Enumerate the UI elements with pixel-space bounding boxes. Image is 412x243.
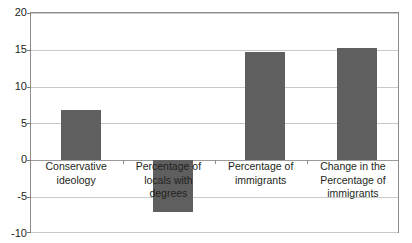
y-tick-label-5: 5 bbox=[1, 117, 27, 128]
category-label-conservative-ideology: Conservative ideology bbox=[30, 160, 122, 230]
category-label-line: Change in the bbox=[309, 160, 397, 174]
category-label-line: Percentage of bbox=[217, 160, 305, 174]
category-label-line: immigrants bbox=[309, 187, 397, 201]
category-label-line: locals with bbox=[124, 174, 212, 188]
y-tick-label-neg5: -5 bbox=[1, 191, 27, 202]
y-tick-label-15: 15 bbox=[1, 43, 27, 54]
y-tickmark-10 bbox=[27, 87, 31, 88]
bar-change-in-percentage-of-immigrants bbox=[337, 48, 377, 160]
y-tick-label-0: 0 bbox=[1, 154, 27, 165]
category-label-percentage-of-immigrants: Percentage of immigrants bbox=[215, 160, 307, 230]
category-label-line: ideology bbox=[32, 174, 120, 188]
category-label-line: Conservative bbox=[32, 160, 120, 174]
category-label-change-in-percentage-of-immigrants: Change in the Percentage of immigrants bbox=[307, 160, 399, 230]
gridline-neg10 bbox=[31, 232, 398, 233]
y-tickmark-neg10 bbox=[27, 232, 31, 233]
y-tickmark-5 bbox=[27, 123, 31, 124]
y-tick-label-neg10: -10 bbox=[1, 228, 27, 239]
category-label-line: immigrants bbox=[217, 174, 305, 188]
category-label-percentage-of-locals-with-degrees: Percentage of locals with degrees bbox=[122, 160, 214, 230]
category-label-line: Percentage of bbox=[309, 174, 397, 188]
gridline-20 bbox=[31, 13, 398, 14]
y-tick-label-10: 10 bbox=[1, 80, 27, 91]
y-tickmark-20 bbox=[27, 13, 31, 14]
bar-chart: 20 15 10 5 0 -5 -10 bbox=[0, 0, 412, 243]
category-label-line: Percentage of bbox=[124, 160, 212, 174]
x-axis-category-labels: Conservative ideology Percentage of loca… bbox=[30, 160, 399, 230]
y-tick-label-20: 20 bbox=[1, 7, 27, 18]
y-tickmark-15 bbox=[27, 50, 31, 51]
bar-conservative-ideology bbox=[61, 110, 101, 160]
y-axis: 20 15 10 5 0 -5 -10 bbox=[0, 12, 27, 233]
category-label-line: degrees bbox=[124, 187, 212, 201]
bar-percentage-of-immigrants bbox=[245, 52, 285, 160]
